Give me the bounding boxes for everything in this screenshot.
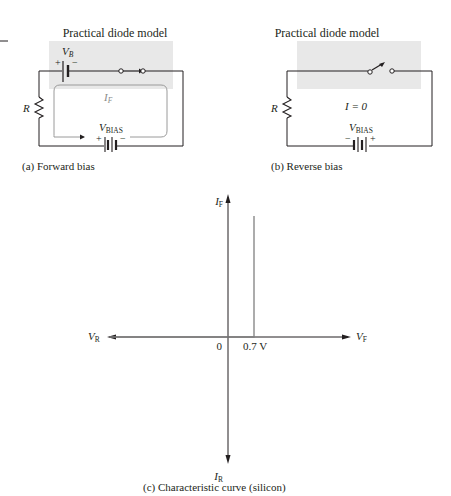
battery-vb-plus: + (55, 57, 61, 68)
resistor-r-zigzag (283, 97, 291, 118)
current-zero-label: I = 0 (344, 100, 368, 112)
panel-a-title: Practical diode model (63, 26, 168, 40)
vbias-plus: + (96, 133, 102, 144)
arrow-up-icon (226, 194, 231, 203)
panel-c-caption: (c) Characteristic curve (silicon) (143, 481, 286, 494)
arrow-down-icon (226, 455, 231, 464)
diode-model-figure: Practical diode model VB + (0, 0, 451, 496)
switch-terminal-right (141, 69, 145, 73)
arrow-right-icon (342, 335, 351, 340)
switch-terminal-left (119, 69, 123, 73)
vbias-plus: + (370, 133, 376, 144)
vbias-minus: − (345, 133, 351, 144)
resistor-r-label: R (270, 102, 278, 114)
characteristic-curve (110, 216, 254, 337)
switch-terminal-left (368, 70, 372, 74)
resistor-r-label: R (22, 102, 30, 114)
panel-b-title: Practical diode model (275, 26, 380, 40)
axis-label-vr: VR (88, 330, 100, 344)
panel-b-reverse-bias: Practical diode model R I = 0 VBIAS − + … (270, 26, 432, 173)
switch-terminal-right (390, 69, 394, 73)
battery-vb-minus: − (72, 57, 78, 68)
axis-label-if: IF (214, 195, 223, 209)
origin-label: 0 (217, 340, 223, 352)
diode-model-shading (297, 41, 421, 89)
current-if-label: IF (103, 91, 113, 105)
current-direction-arrow-icon (80, 135, 85, 140)
vbias-minus: − (120, 133, 126, 144)
knee-voltage-label: 0.7 V (243, 340, 267, 352)
panel-b-caption: (b) Reverse bias (271, 160, 342, 173)
panel-a-forward-bias: Practical diode model VB + (22, 26, 183, 173)
axis-label-vf: VF (356, 330, 367, 344)
panel-c-characteristic-curve: IF IR VR VF 0 0.7 V (c) Characteristic c… (88, 194, 367, 494)
resistor-r-zigzag (35, 97, 43, 118)
panel-a-caption: (a) Forward bias (22, 160, 95, 173)
